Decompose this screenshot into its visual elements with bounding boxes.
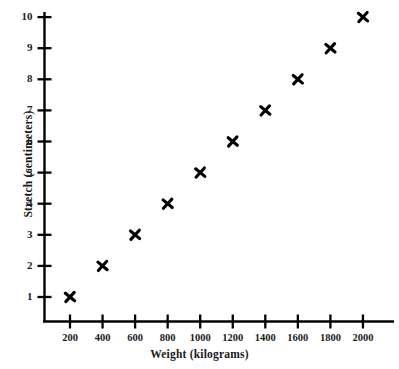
data-point-marker (163, 199, 172, 208)
y-axis-tick-label: 8 (9, 73, 33, 84)
data-point-marker (293, 75, 302, 84)
scatter-plot: 12345678910 2004006008001000120014001600… (0, 0, 399, 369)
data-point-marker (98, 261, 107, 270)
data-point-marker (65, 292, 74, 301)
y-axis-tick-label: 2 (9, 260, 33, 271)
data-point-marker (358, 13, 367, 22)
data-point-markers (65, 13, 367, 302)
data-point-marker (131, 230, 140, 239)
y-axis-tick-label: 9 (9, 42, 33, 53)
x-axis-title: Weight (kilograms) (0, 348, 399, 360)
plot-canvas (0, 0, 399, 369)
y-axis-title: Stretch (centimeters) (22, 94, 34, 234)
data-point-marker (228, 137, 237, 146)
data-point-marker (196, 168, 205, 177)
x-axis-tick-label: 2000 (343, 333, 383, 344)
y-axis-tick-label: 10 (9, 11, 33, 22)
data-point-marker (326, 44, 335, 53)
data-point-marker (261, 106, 270, 115)
y-axis-tick-label: 1 (9, 291, 33, 302)
axes (43, 12, 394, 322)
